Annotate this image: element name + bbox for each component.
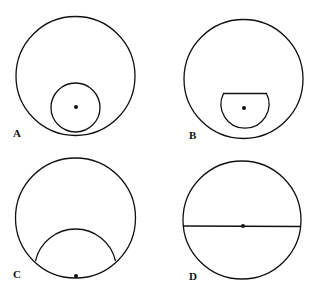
edge-dot xyxy=(74,274,78,278)
inner-arc xyxy=(36,229,116,261)
panel-a: A xyxy=(13,17,135,140)
panel-d: D xyxy=(183,161,301,282)
panel-label-a: A xyxy=(13,127,21,139)
center-dot xyxy=(242,106,246,110)
panel-b: B xyxy=(184,20,303,142)
panel-label-d: D xyxy=(189,270,197,282)
outer-circle xyxy=(184,20,303,139)
center-dot xyxy=(241,224,245,228)
outer-circle xyxy=(16,17,135,136)
truncated-circle xyxy=(221,94,269,129)
outer-circle xyxy=(16,158,136,278)
panel-label-b: B xyxy=(189,129,197,141)
center-dot xyxy=(74,105,78,109)
panel-c: C xyxy=(13,158,136,280)
panel-label-c: C xyxy=(13,268,21,280)
outer-circle xyxy=(183,161,301,279)
diagram-canvas: A B C D xyxy=(0,0,319,292)
